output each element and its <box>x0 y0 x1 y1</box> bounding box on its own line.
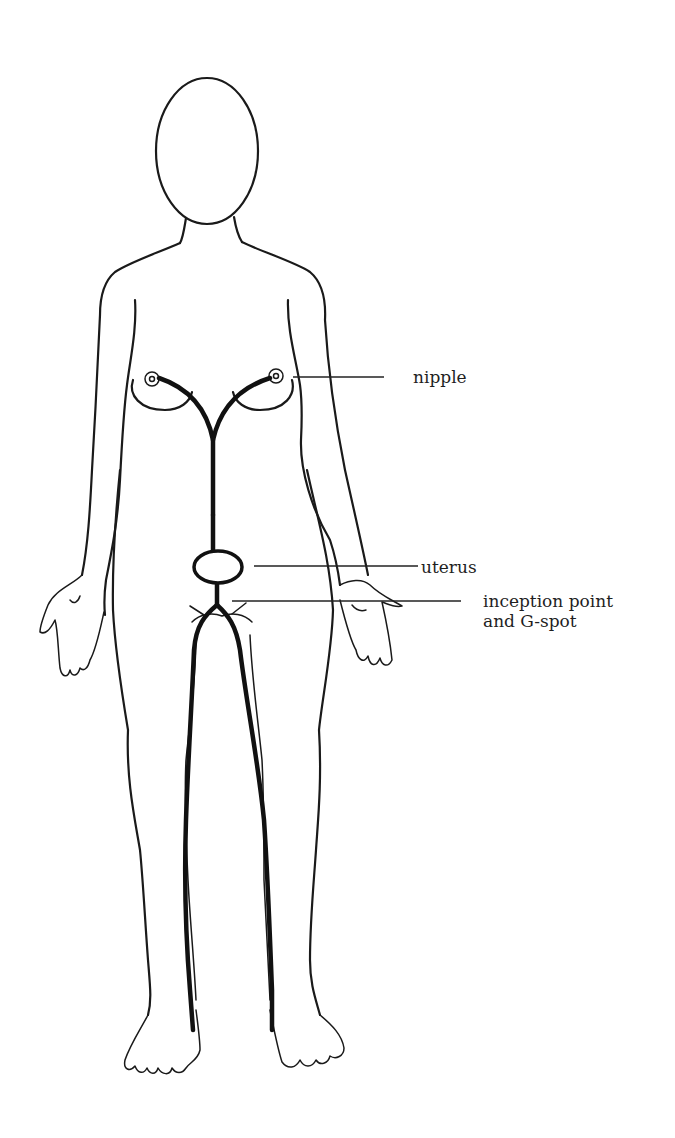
label-inception-line-1: inception point <box>483 591 613 611</box>
right-foot <box>270 1010 344 1067</box>
head <box>156 78 258 224</box>
label-inception-line-2: and G-spot <box>483 611 613 631</box>
legs-outline <box>128 614 320 1015</box>
label-inception-point: inception point and G-spot <box>483 591 613 631</box>
left-foot <box>125 1010 200 1074</box>
female-figure-diagram <box>0 0 675 1138</box>
breasts <box>132 369 293 410</box>
label-uterus: uterus <box>421 557 477 577</box>
left-hand <box>40 575 104 676</box>
uterus-shape <box>194 551 242 583</box>
body-outline <box>82 217 368 730</box>
right-hand <box>340 580 402 665</box>
label-nipple: nipple <box>413 367 467 387</box>
